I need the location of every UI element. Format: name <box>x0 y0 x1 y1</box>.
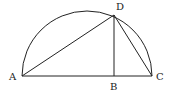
label-c: C <box>156 71 164 82</box>
segment-dc <box>114 15 152 76</box>
semicircle-arc <box>22 11 152 76</box>
label-a: A <box>8 71 17 82</box>
geometry-diagram: A B C D <box>0 0 173 98</box>
label-d: D <box>116 1 124 12</box>
segment-ad <box>22 15 114 76</box>
label-b: B <box>110 81 117 92</box>
